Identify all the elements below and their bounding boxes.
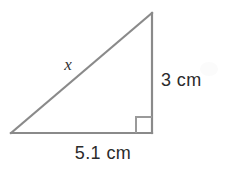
vertical-leg-label: 3 cm [161, 71, 202, 89]
scan-artifact [200, 62, 218, 76]
base-leg-label: 5.1 cm [0, 144, 206, 162]
hypotenuse-label: x [57, 56, 79, 73]
hypotenuse-line [11, 13, 152, 133]
right-angle-marker-icon [136, 117, 152, 133]
figure-canvas: x 3 cm 5.1 cm [0, 0, 225, 171]
